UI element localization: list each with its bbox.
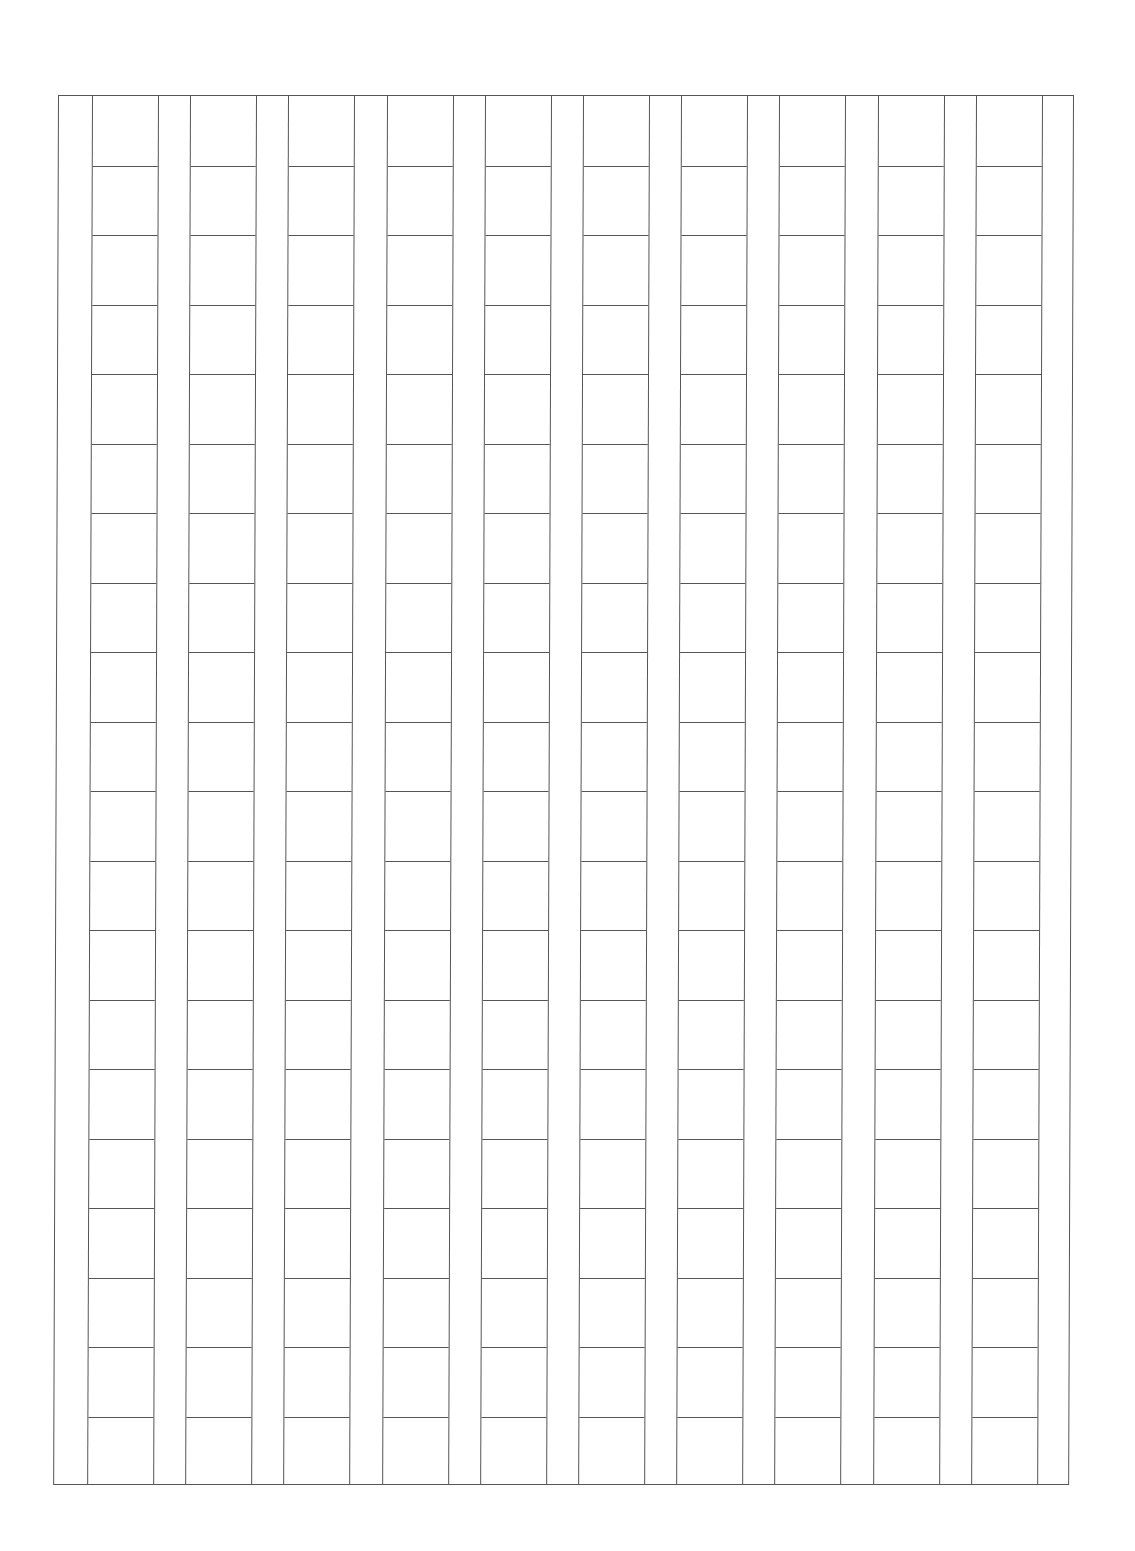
grid-cell xyxy=(285,1347,350,1417)
grid-cell xyxy=(93,96,158,166)
grid-cell xyxy=(679,930,744,1000)
grid-cell xyxy=(778,791,843,861)
grid-cell xyxy=(777,1069,842,1139)
grid-cell xyxy=(89,1208,154,1278)
grid-cell xyxy=(387,305,452,375)
grid-cell xyxy=(875,1139,940,1209)
grid-cell xyxy=(777,1139,842,1209)
grid-cell xyxy=(385,861,450,931)
grid-cell xyxy=(386,374,451,444)
grid-cell xyxy=(187,1347,252,1417)
grid-cell xyxy=(584,166,649,236)
grid-cell xyxy=(874,1278,939,1348)
grid-cell xyxy=(579,1417,644,1487)
grid-cell xyxy=(485,374,550,444)
grid-cell xyxy=(678,1278,743,1348)
grid-cell xyxy=(680,791,745,861)
grid-cell xyxy=(383,1347,448,1417)
grid-cell xyxy=(383,1208,448,1278)
grid-cell xyxy=(288,513,353,583)
grid-cell xyxy=(583,444,648,514)
grid-cell xyxy=(680,513,745,583)
grid-cell xyxy=(581,861,646,931)
grid-cell xyxy=(288,444,353,514)
grid-cell xyxy=(481,1417,546,1487)
grid-cell xyxy=(974,791,1039,861)
grid-cell xyxy=(483,722,548,792)
grid-cell xyxy=(681,444,746,514)
grid-cell xyxy=(972,1417,1037,1487)
grid-cell xyxy=(580,1208,645,1278)
writing-column xyxy=(87,96,159,1484)
grid-cell xyxy=(975,583,1040,653)
grid-cell xyxy=(482,1139,547,1209)
grid-cell xyxy=(288,374,353,444)
grid-cell xyxy=(286,861,351,931)
grid-cell xyxy=(874,1347,939,1417)
grid-cell xyxy=(679,861,744,931)
grid-cell xyxy=(583,374,648,444)
grid-cell xyxy=(289,166,354,236)
grid-cell xyxy=(973,1069,1038,1139)
grid-cell xyxy=(780,166,845,236)
grid-cell xyxy=(483,930,548,1000)
writing-column xyxy=(676,96,748,1484)
grid-cell xyxy=(481,1278,546,1348)
grid-cell xyxy=(287,791,352,861)
grid-cell xyxy=(191,166,256,236)
grid-cell xyxy=(580,1278,645,1348)
grid-sheet xyxy=(53,95,1074,1485)
grid-cell xyxy=(187,1278,252,1348)
grid-cell xyxy=(188,1000,253,1070)
grid-cell xyxy=(287,652,352,722)
grid-cell xyxy=(384,1069,449,1139)
grid-cell xyxy=(383,1417,448,1487)
grid-cell xyxy=(485,305,550,375)
grid-cell xyxy=(89,1069,154,1139)
grid-cell xyxy=(876,791,941,861)
grid-cell xyxy=(583,235,648,305)
grid-cell xyxy=(976,305,1041,375)
grid-cell xyxy=(681,374,746,444)
grid-cell xyxy=(384,930,449,1000)
grid-cell xyxy=(91,583,156,653)
grid-cell xyxy=(484,652,549,722)
grid-cell xyxy=(779,305,844,375)
grid-cell xyxy=(974,861,1039,931)
grid-cell xyxy=(876,861,941,931)
grid-cell xyxy=(678,1208,743,1278)
grid-cell xyxy=(285,1278,350,1348)
grid-cell xyxy=(579,1347,644,1417)
grid-cell xyxy=(484,513,549,583)
grid-cell xyxy=(189,791,254,861)
grid-cell xyxy=(482,1208,547,1278)
grid-cell xyxy=(680,652,745,722)
grid-cell xyxy=(976,166,1041,236)
grid-cell xyxy=(486,96,551,166)
grid-cell xyxy=(190,235,255,305)
grid-cell xyxy=(386,513,451,583)
grid-cell xyxy=(582,722,647,792)
grid-cell xyxy=(90,791,155,861)
grid-cell xyxy=(580,1069,645,1139)
grid-cell xyxy=(780,96,845,166)
grid-cell xyxy=(778,722,843,792)
grid-cell xyxy=(875,1069,940,1139)
grid-cell xyxy=(972,1347,1037,1417)
grid-cell xyxy=(189,722,254,792)
grid-cell xyxy=(878,166,943,236)
grid-cell xyxy=(289,96,354,166)
grid-cell xyxy=(384,1139,449,1209)
grid-cell xyxy=(188,861,253,931)
writing-column xyxy=(873,96,945,1484)
grid-cell xyxy=(89,1139,154,1209)
grid-cell xyxy=(92,235,157,305)
grid-cell xyxy=(90,861,155,931)
grid-cell xyxy=(286,1069,351,1139)
grid-cell xyxy=(88,1417,153,1487)
grid-cell xyxy=(973,1139,1038,1209)
grid-cell xyxy=(878,96,943,166)
grid-cell xyxy=(976,235,1041,305)
grid-cell xyxy=(187,1208,252,1278)
grid-cell xyxy=(190,305,255,375)
